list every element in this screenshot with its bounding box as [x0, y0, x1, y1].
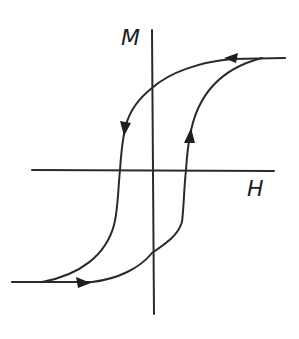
arrow-up-icon [184, 128, 195, 143]
arrow-down-icon [120, 121, 131, 136]
m-axis-label: M [121, 27, 140, 49]
m-axis [152, 30, 154, 314]
hysteresis-diagram: M H [0, 0, 299, 339]
arrow-left-icon [224, 53, 238, 63]
hysteresis-loop-drawing [0, 0, 299, 339]
h-axis [32, 170, 274, 171]
arrow-right-icon [76, 277, 91, 288]
h-axis-label: H [247, 178, 264, 200]
